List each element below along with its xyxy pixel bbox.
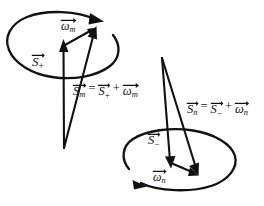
vector-diagram-figure: ωm S+ Sm = <box>0 0 264 206</box>
eq-lower-equals: = <box>201 100 208 113</box>
eq-lower-term1-subscript: − <box>217 108 222 118</box>
eq-lower-term2-symbol: ω <box>235 102 244 116</box>
s-plus-subscript: + <box>39 61 44 71</box>
eq-lower-plus: + <box>225 100 232 113</box>
eq-upper-term1: S+ <box>98 82 109 100</box>
s-minus-vector-notation: S− <box>148 131 159 149</box>
s-minus-arrowhead <box>165 156 176 169</box>
label-omega-m: ωm <box>61 17 75 34</box>
eq-upper-lhs: Sm <box>73 82 85 99</box>
s-minus-subscript: − <box>154 139 159 149</box>
label-s-plus: S+ <box>32 52 44 71</box>
eq-upper-term2-subscript: m <box>132 89 138 99</box>
eq-upper-plus: + <box>113 82 120 95</box>
omega-n-vector-notation: ωn <box>153 168 166 185</box>
eq-lower-term1: S− <box>211 100 222 118</box>
eq-lower-term2-subscript: n <box>244 107 248 117</box>
s-plus-vector-notation: S+ <box>32 52 44 71</box>
label-s-minus: S− <box>148 131 159 149</box>
eq-upper-term1-subscript: + <box>105 90 110 100</box>
equation-lower: Sn = S− + ωn <box>187 100 248 118</box>
eq-upper-term2: ωm <box>123 82 138 99</box>
eq-lower-term2: ωn <box>235 100 248 117</box>
s-plus-arrowhead <box>59 39 69 52</box>
vector-s-plus <box>59 39 69 148</box>
lower-precession-ellipse <box>124 129 236 190</box>
vector-s-minus <box>162 58 176 169</box>
eq-upper-lhs-subscript: m <box>79 89 85 99</box>
omega-m-subscript: m <box>69 25 75 34</box>
eq-upper-term2-symbol: ω <box>123 84 132 98</box>
upper-circulation-arrowhead <box>89 13 105 25</box>
omega-n-subscript: n <box>161 176 165 185</box>
eq-upper-equals: = <box>88 82 95 95</box>
eq-lower-lhs-subscript: n <box>193 107 197 117</box>
omega-m-vector-notation: ωm <box>61 17 75 34</box>
equation-upper: Sm = S+ + ωm <box>73 82 138 100</box>
eq-lower-lhs: Sn <box>187 100 198 117</box>
label-omega-n: ωn <box>153 168 166 185</box>
